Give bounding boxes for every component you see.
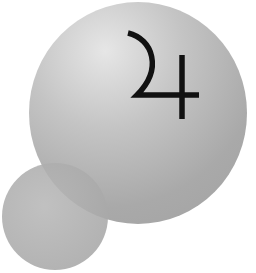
jupiter-symbol-icon bbox=[123, 29, 203, 121]
small-sphere bbox=[2, 163, 108, 270]
